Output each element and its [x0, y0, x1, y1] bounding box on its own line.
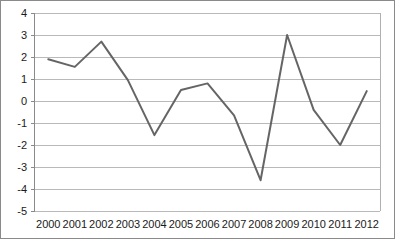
- gridlines-group: [35, 14, 380, 212]
- x-axis-tick-label: 2007: [222, 218, 246, 230]
- x-axis-tick-label: 2006: [195, 218, 219, 230]
- y-axis-tick-label: 3: [21, 29, 27, 41]
- x-axis-tick-label: 2002: [89, 218, 113, 230]
- x-axis-tick-label: 2000: [36, 218, 60, 230]
- data-series-line: [48, 35, 366, 180]
- chart-figure: 43210-1-2-3-4-5 200020012002200320042005…: [0, 0, 395, 239]
- x-axis-tick-label: 2005: [169, 218, 193, 230]
- x-axis-tick-label: 2011: [328, 218, 352, 230]
- y-axis-tick-label: -3: [17, 161, 27, 173]
- x-axis-tick-label: 2003: [116, 218, 140, 230]
- chart-plot-area: 43210-1-2-3-4-5 200020012002200320042005…: [1, 1, 395, 239]
- y-axis-tick-label: -5: [17, 205, 27, 217]
- y-axis-tick-label: 0: [21, 95, 27, 107]
- line-chart-svg: 43210-1-2-3-4-5 200020012002200320042005…: [1, 1, 395, 239]
- y-axis-tick-label: -2: [17, 139, 27, 151]
- x-axis-tick-label: 2009: [275, 218, 299, 230]
- x-axis-tick-label: 2010: [301, 218, 325, 230]
- x-axis-tick-label: 2001: [63, 218, 87, 230]
- y-axis-tick-label: -1: [17, 117, 27, 129]
- y-axis-tick-label: 2: [21, 51, 27, 63]
- x-axis-tick-label: 2004: [142, 218, 166, 230]
- x-axis-tick-label: 2012: [354, 218, 378, 230]
- y-axis-tick-labels: 43210-1-2-3-4-5: [17, 7, 27, 217]
- y-axis-tick-label: 4: [21, 7, 27, 19]
- y-axis-tick-label: 1: [21, 73, 27, 85]
- y-axis-tick-label: -4: [17, 183, 27, 195]
- x-axis-tick-labels: 2000200120022003200420052006200720082009…: [36, 218, 379, 230]
- x-axis-tick-label: 2008: [248, 218, 272, 230]
